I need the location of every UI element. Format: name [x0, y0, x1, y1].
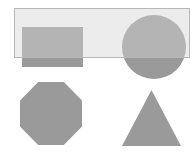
triangle-shape[interactable]: [122, 90, 181, 146]
octagon-shape[interactable]: [20, 82, 82, 145]
drawing-canvas: [0, 0, 196, 152]
selection-marquee: [14, 8, 190, 58]
